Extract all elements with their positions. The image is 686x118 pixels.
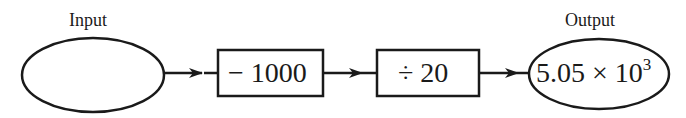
input-label: Input	[69, 10, 107, 30]
output-mantissa: 5.05 × 10	[536, 57, 643, 88]
output-label: Output	[565, 10, 615, 30]
subtract-operation: − 1000	[228, 58, 307, 88]
output-value: 5.05 × 103	[536, 58, 651, 88]
output-exponent: 3	[643, 55, 652, 74]
input-ellipse	[22, 38, 164, 112]
divide-operation: ÷ 20	[398, 58, 448, 88]
